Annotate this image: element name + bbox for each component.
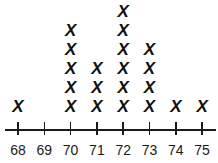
line-plot: 68X6970XXXXX71XXX72XXXXXX73XXXX74X75X xyxy=(0,0,218,163)
tick-label-75: 75 xyxy=(190,142,214,158)
tick-68 xyxy=(17,122,19,135)
x-mark-icon: X xyxy=(10,99,26,115)
tick-label-69: 69 xyxy=(32,142,56,158)
tick-75 xyxy=(201,122,203,135)
tick-72 xyxy=(122,122,124,135)
tick-label-71: 71 xyxy=(85,142,109,158)
tick-label-68: 68 xyxy=(6,142,30,158)
tick-label-72: 72 xyxy=(111,142,135,158)
x-mark-icon: X xyxy=(142,61,158,77)
x-mark-icon: X xyxy=(115,23,131,39)
x-mark-icon: X xyxy=(115,99,131,115)
tick-label-73: 73 xyxy=(138,142,162,158)
x-mark-icon: X xyxy=(115,4,131,20)
x-mark-icon: X xyxy=(63,23,79,39)
tick-71 xyxy=(96,122,98,135)
x-mark-icon: X xyxy=(168,99,184,115)
tick-label-70: 70 xyxy=(59,142,83,158)
tick-74 xyxy=(175,122,177,135)
tick-label-74: 74 xyxy=(164,142,188,158)
x-mark-icon: X xyxy=(89,61,105,77)
x-mark-icon: X xyxy=(115,61,131,77)
x-mark-icon: X xyxy=(115,80,131,96)
x-mark-icon: X xyxy=(63,99,79,115)
x-mark-icon: X xyxy=(142,42,158,58)
x-mark-icon: X xyxy=(63,42,79,58)
x-mark-icon: X xyxy=(142,80,158,96)
number-line xyxy=(5,129,216,131)
x-mark-icon: X xyxy=(63,61,79,77)
x-mark-icon: X xyxy=(115,42,131,58)
tick-73 xyxy=(149,122,151,135)
x-mark-icon: X xyxy=(142,99,158,115)
tick-70 xyxy=(70,122,72,135)
tick-69 xyxy=(44,122,46,135)
x-mark-icon: X xyxy=(63,80,79,96)
x-mark-icon: X xyxy=(89,99,105,115)
x-mark-icon: X xyxy=(194,99,210,115)
x-mark-icon: X xyxy=(89,80,105,96)
